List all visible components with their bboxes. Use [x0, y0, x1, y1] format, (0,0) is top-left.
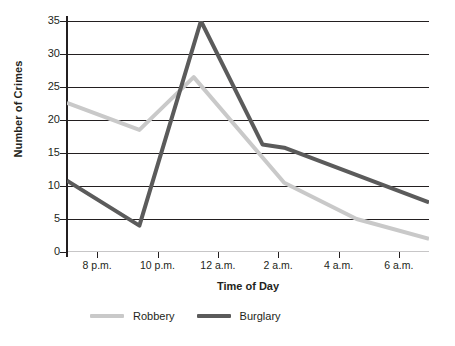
- y-axis-tick-labels: 35302520151050: [34, 0, 60, 346]
- y-tick-mark: [60, 21, 67, 22]
- y-tick-mark: [60, 219, 67, 220]
- legend-swatch-icon: [90, 314, 124, 318]
- y-tick-label: 30: [34, 48, 60, 59]
- y-tick-label: 5: [34, 213, 60, 224]
- y-tick-label: 10: [34, 180, 60, 191]
- legend-label: Burglary: [240, 310, 281, 322]
- y-tick-mark: [60, 54, 67, 55]
- y-tick-label: 20: [34, 114, 60, 125]
- y-tick-mark: [60, 252, 67, 253]
- x-tick-label: 6 a.m.: [364, 259, 434, 271]
- x-tick-mark: [218, 252, 219, 258]
- y-tick-label: 15: [34, 147, 60, 158]
- y-axis-title: Number of Crimes: [12, 29, 24, 189]
- x-tick-mark: [399, 252, 400, 258]
- chart-legend: RobberyBurglary: [90, 310, 281, 322]
- x-tick-mark: [339, 252, 340, 258]
- legend-label: Robbery: [133, 310, 175, 322]
- x-axis-title: Time of Day: [67, 280, 429, 292]
- x-tick-mark: [97, 252, 98, 258]
- y-tick-label: 35: [34, 15, 60, 26]
- y-tick-mark: [60, 153, 67, 154]
- plot-svg: [67, 21, 429, 252]
- x-tick-mark: [158, 252, 159, 258]
- y-tick-mark: [60, 87, 67, 88]
- legend-item-robbery[interactable]: Robbery: [90, 310, 175, 322]
- legend-item-burglary[interactable]: Burglary: [197, 310, 281, 322]
- x-tick-mark: [278, 252, 279, 258]
- y-tick-label: 25: [34, 81, 60, 92]
- plot-area: [67, 21, 429, 252]
- legend-swatch-icon: [197, 314, 231, 318]
- crime-by-time-line-chart: Number of Crimes 35302520151050 Time of …: [0, 0, 455, 346]
- y-tick-label: 0: [34, 246, 60, 257]
- y-tick-mark: [60, 186, 67, 187]
- y-tick-mark: [60, 120, 67, 121]
